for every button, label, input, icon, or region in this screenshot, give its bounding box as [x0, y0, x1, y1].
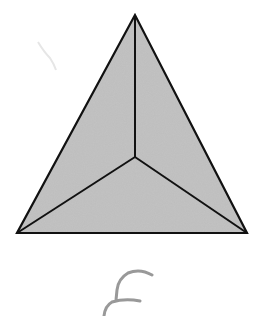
triangle-texture: [17, 15, 247, 233]
handwritten-mark: [104, 271, 152, 316]
faint-scribble: [38, 42, 56, 70]
tetrahedron-diagram: [0, 0, 260, 316]
